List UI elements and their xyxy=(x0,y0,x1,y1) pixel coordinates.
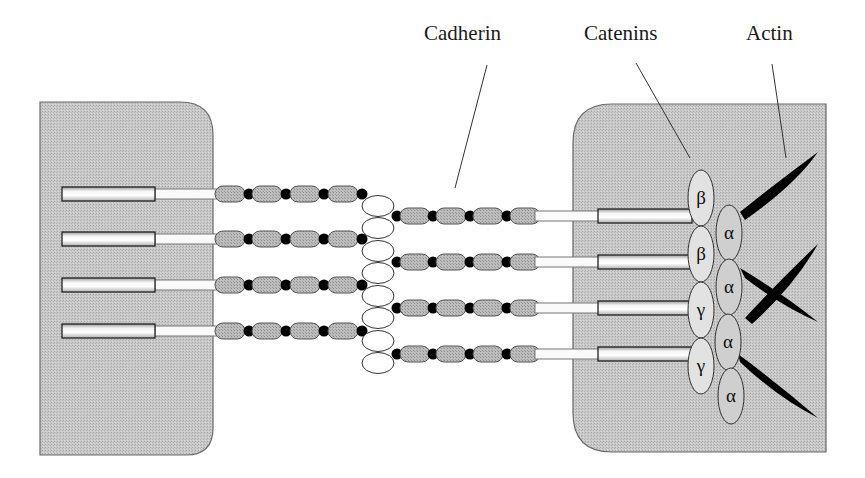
ec1-oval xyxy=(362,263,394,284)
cadherin-stem xyxy=(155,189,222,199)
cadherin-stem xyxy=(155,234,222,244)
cadherin-domain-bead xyxy=(473,346,503,362)
cadherin-domain-bead xyxy=(252,277,282,293)
catenin-symbol: α xyxy=(724,276,734,297)
ec1-oval xyxy=(362,331,394,352)
cadherin-domain-bead xyxy=(290,323,320,339)
cadherin-domain-bead xyxy=(436,254,466,270)
catenin-gamma: γ xyxy=(688,282,714,338)
catenin-beta: β xyxy=(688,170,714,226)
cadherin-stem xyxy=(535,303,600,313)
ec1-oval xyxy=(362,218,394,239)
cadherin-domain-bead xyxy=(215,277,245,293)
catenin-alpha: α xyxy=(716,259,742,315)
cadherin-domain-bead xyxy=(436,346,466,362)
catenins-label: Catenins xyxy=(584,21,658,46)
cadherin-domain-bead xyxy=(290,277,320,293)
cadherin-domain-bead xyxy=(215,186,245,202)
cadherin-domain-bead xyxy=(328,186,358,202)
catenin-symbol: β xyxy=(696,243,706,264)
right-cadherin-chains xyxy=(392,208,541,362)
cadherin-stem xyxy=(155,280,222,290)
cadherin-domain-bead xyxy=(215,323,245,339)
ec1-oval xyxy=(362,286,394,307)
transmembrane-rod xyxy=(62,278,155,292)
diagram-canvas: βαβαγαγα xyxy=(0,0,865,478)
cadherin-domain-bead xyxy=(436,300,466,316)
catenin-symbol: α xyxy=(723,331,733,352)
cadherin-domain-bead xyxy=(252,231,282,247)
catenin-symbol: α xyxy=(724,222,734,243)
catenin-symbol: α xyxy=(726,385,736,406)
cadherin-domain-bead xyxy=(436,208,466,224)
cadherin-domain-bead xyxy=(252,323,282,339)
cadherin-domain-bead xyxy=(400,254,430,270)
transmembrane-rod xyxy=(62,232,155,246)
cadherin-domain-bead xyxy=(252,186,282,202)
catenin-symbol: β xyxy=(696,187,706,208)
catenin-alpha: α xyxy=(716,205,742,261)
catenin-alpha: α xyxy=(715,314,741,370)
ec1-oval xyxy=(362,196,394,217)
cadherin-junction-diagram: βαβαγαγα Cadherin Catenins Actin xyxy=(0,0,865,478)
ec1-oval xyxy=(362,308,394,329)
cadherin-stem xyxy=(535,349,600,359)
cadherin-stem xyxy=(535,257,600,267)
cadherin-domain-bead xyxy=(473,254,503,270)
cadherin-label: Cadherin xyxy=(424,21,501,46)
cadherin-domain-bead xyxy=(215,231,245,247)
catenin-gamma: γ xyxy=(688,338,714,394)
cadherin-domain-bead xyxy=(400,346,430,362)
cadherin-domain-bead xyxy=(290,231,320,247)
ec1-oval xyxy=(362,241,394,262)
ec1-oval xyxy=(362,353,394,374)
cadherin-domain-bead xyxy=(400,208,430,224)
cadherin-stem xyxy=(155,326,222,336)
catenin-symbol: γ xyxy=(696,355,705,376)
catenin-symbol: γ xyxy=(696,299,705,320)
calcium-binding-dot xyxy=(357,189,368,200)
cadherin-domain-bead xyxy=(328,323,358,339)
transmembrane-rod xyxy=(598,347,692,361)
cadherin-domain-bead xyxy=(400,300,430,316)
transmembrane-rod xyxy=(598,255,692,269)
cadherin-pointer-line xyxy=(455,65,487,188)
actin-label: Actin xyxy=(746,21,793,46)
transmembrane-rod xyxy=(62,324,155,338)
transmembrane-rod xyxy=(62,187,155,201)
cadherin-domain-bead xyxy=(290,186,320,202)
cadherin-domain-bead xyxy=(328,231,358,247)
cadherin-domain-bead xyxy=(473,208,503,224)
cadherin-domain-bead xyxy=(473,300,503,316)
catenin-beta: β xyxy=(688,226,714,282)
transmembrane-rod xyxy=(598,301,692,315)
catenin-alpha: α xyxy=(718,368,744,424)
cadherin-stem xyxy=(535,211,600,221)
transmembrane-rod xyxy=(598,209,692,223)
left-cadherin-chains xyxy=(215,186,368,339)
cadherin-domain-bead xyxy=(328,277,358,293)
